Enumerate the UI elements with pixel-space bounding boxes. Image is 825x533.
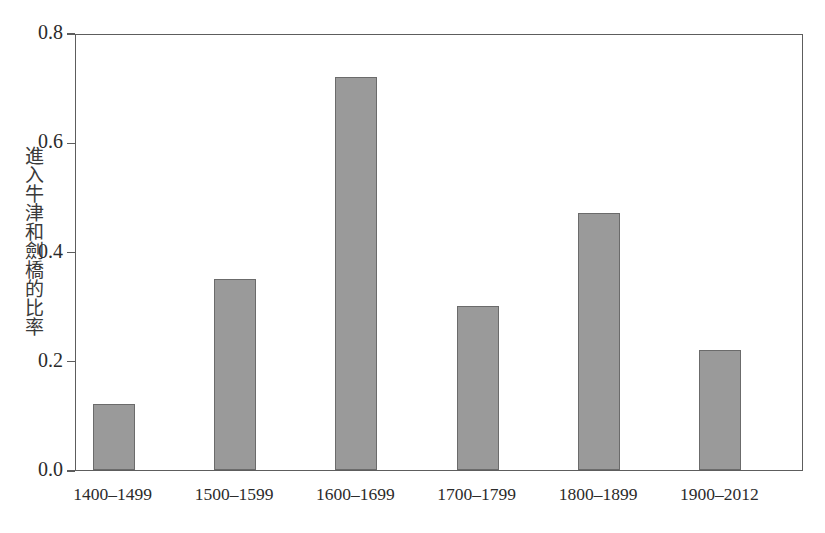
y-tick-mark [67, 143, 75, 144]
y-tick-mark [67, 470, 75, 471]
y-tick-mark [67, 252, 75, 253]
bar [457, 306, 499, 470]
bar [93, 404, 135, 470]
x-tick-label: 1400–1499 [73, 484, 152, 505]
bar [699, 350, 741, 470]
x-tick-label: 1900–2012 [680, 484, 759, 505]
y-tick-mark [67, 361, 75, 362]
y-tick-label: 0.6 [38, 130, 63, 153]
y-tick-label: 0.0 [38, 458, 63, 481]
bar [578, 213, 620, 470]
x-tick-label: 1800–1899 [559, 484, 638, 505]
y-tick-label: 0.4 [38, 240, 63, 263]
y-tick-mark [67, 33, 75, 34]
bar [214, 279, 256, 470]
y-tick-label: 0.2 [38, 349, 63, 372]
x-tick-label: 1700–1799 [437, 484, 516, 505]
plot-area [75, 34, 803, 471]
x-tick-label: 1600–1699 [316, 484, 395, 505]
y-axis-title: 進入牛津和劍橋的比率 [8, 96, 42, 386]
bar [335, 77, 377, 470]
chart-figure: 進入牛津和劍橋的比率 0.00.20.40.60.8 1400–14991500… [0, 0, 825, 533]
y-tick-label: 0.8 [38, 21, 63, 44]
x-tick-label: 1500–1599 [195, 484, 274, 505]
